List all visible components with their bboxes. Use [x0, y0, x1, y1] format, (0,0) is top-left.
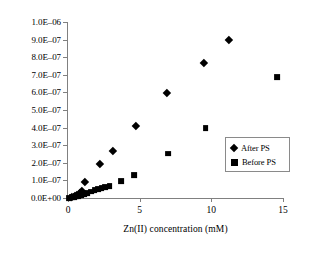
data-point-before-ps: [107, 183, 113, 189]
data-point-after-ps: [224, 36, 232, 44]
data-point-before-ps: [203, 125, 209, 131]
data-point-before-ps: [274, 75, 280, 81]
y-axis-tick: [63, 163, 67, 164]
chart-legend: After PS Before PS: [225, 137, 290, 172]
y-axis-tick-label: 9.0E–07: [31, 35, 61, 45]
y-axis-tick: [63, 22, 67, 23]
data-point-after-ps: [81, 177, 89, 185]
y-axis-tick-label: 1.0E–06: [31, 17, 61, 27]
legend-item-after-ps: After PS: [231, 141, 285, 155]
x-axis-title-text: Zn(II) concentration (mM): [123, 224, 227, 234]
data-point-before-ps: [165, 151, 171, 157]
y-axis-tick: [63, 75, 67, 76]
y-axis-tick-label: 4.0E–07: [31, 123, 61, 133]
square-marker-icon: [231, 159, 238, 166]
data-point-after-ps: [163, 89, 171, 97]
x-axis-tick-label: 15: [278, 205, 288, 215]
data-point-after-ps: [200, 59, 208, 67]
y-axis-tick-label: 5.0E–07: [31, 105, 61, 115]
y-axis-tick-label: 8.0E–07: [31, 52, 61, 62]
y-axis-line: [67, 22, 68, 199]
y-axis-tick-label: 2.0E–07: [31, 158, 61, 168]
y-axis-tick-label: 3.0E–07: [31, 140, 61, 150]
y-axis-tick-label: 0.0E+00: [31, 193, 61, 203]
legend-label-after-ps: After PS: [241, 143, 270, 153]
data-point-after-ps: [95, 160, 103, 168]
data-point-after-ps: [131, 122, 139, 130]
data-point-after-ps: [108, 146, 116, 154]
x-axis-tick-label: 10: [207, 205, 217, 215]
x-axis-tick: [211, 198, 212, 202]
x-axis-tick: [283, 198, 284, 202]
x-axis-tick-label: 5: [137, 205, 142, 215]
y-axis-tick: [63, 110, 67, 111]
y-axis-tick: [63, 40, 67, 41]
scatter-chart-figure: Peak current (A) 0.0E+001.0E–072.0E–073.…: [0, 0, 314, 254]
x-axis-title: Zn(II) concentration (mM): [68, 224, 283, 234]
data-point-before-ps: [131, 173, 137, 179]
y-axis-title: Peak current (A): [0, 0, 16, 254]
y-axis-tick-label: 6.0E–07: [31, 87, 61, 97]
legend-item-before-ps: Before PS: [231, 155, 285, 169]
y-axis-tick: [63, 180, 67, 181]
x-axis-line: [67, 198, 283, 199]
y-axis-tick: [63, 128, 67, 129]
diamond-marker-icon: [230, 144, 238, 152]
data-point-before-ps: [118, 178, 124, 184]
y-axis-tick: [63, 92, 67, 93]
x-axis-tick-label: 0: [66, 205, 71, 215]
y-axis-tick-label: 1.0E–07: [31, 175, 61, 185]
y-axis-tick-label: 7.0E–07: [31, 70, 61, 80]
y-axis-tick: [63, 57, 67, 58]
y-axis-tick: [63, 145, 67, 146]
x-axis-tick: [140, 198, 141, 202]
legend-label-before-ps: Before PS: [242, 157, 276, 167]
